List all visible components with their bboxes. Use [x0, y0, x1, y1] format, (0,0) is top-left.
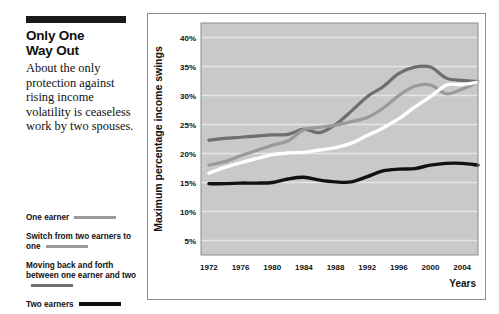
legend-item-label: Switch from two earners to one: [26, 232, 131, 251]
y-axis-tick-label: 5%: [184, 237, 196, 246]
x-axis-tick-label: 1984: [295, 263, 313, 272]
x-axis-tick-label: 1992: [358, 263, 376, 272]
chart-legend: One earnerSwitch from two earners to one…: [26, 213, 140, 314]
x-axis-tick-label: 1996: [390, 263, 408, 272]
y-axis-tick-label: 40%: [180, 34, 196, 43]
line-chart: 5%10%15%20%25%30%35%40%19721976198019841…: [148, 14, 485, 299]
x-axis-tick-label: 1976: [232, 263, 250, 272]
x-axis-tick-label: 1980: [263, 263, 281, 272]
x-axis-tick-label: 1988: [327, 263, 345, 272]
y-axis-title: Maximum percentage income swings: [152, 46, 164, 232]
page-title: Only One Way Out: [26, 29, 138, 58]
x-axis-tick-label: 1972: [200, 263, 218, 272]
plot-background: [201, 23, 478, 255]
legend-item: Switch from two earners to one: [26, 232, 140, 252]
legend-item-label: One earner: [26, 213, 69, 222]
legend-item-swatch: [46, 245, 88, 248]
headline-rule: [26, 16, 126, 23]
legend-item-swatch: [79, 302, 121, 306]
article-deck: About the only protection against rising…: [26, 61, 138, 134]
legend-item-label: Two earners: [26, 300, 74, 309]
y-axis-tick-label: 15%: [180, 179, 196, 188]
headline-line-1: Only One: [26, 29, 138, 44]
y-axis-tick-label: 20%: [180, 150, 196, 159]
x-axis-tick-label: 2004: [453, 263, 471, 272]
legend-item-swatch: [31, 284, 73, 287]
article-sidebar: Only One Way Out About the only protecti…: [26, 16, 138, 134]
chart-frame: 5%10%15%20%25%30%35%40%19721976198019841…: [147, 13, 486, 300]
x-axis-title: Years: [449, 278, 476, 289]
y-axis-tick-label: 35%: [180, 63, 196, 72]
y-axis-tick-label: 10%: [180, 208, 196, 217]
y-axis-tick-label: 30%: [180, 92, 196, 101]
x-axis-tick-label: 2000: [422, 263, 440, 272]
legend-item: Two earners: [26, 300, 140, 310]
legend-item-swatch: [74, 216, 116, 219]
legend-item: Moving back and forth between one earner…: [26, 261, 140, 291]
legend-item-label: Moving back and forth between one earner…: [26, 261, 136, 280]
legend-item: One earner: [26, 213, 140, 223]
headline-line-2: Way Out: [26, 44, 138, 59]
y-axis-tick-label: 25%: [180, 121, 196, 130]
